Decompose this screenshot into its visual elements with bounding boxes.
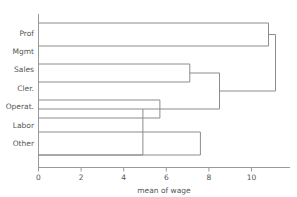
leaf-label-labor: Labor — [13, 121, 35, 130]
leaf-label-sales: Sales — [14, 65, 34, 74]
leaf-label-other: Other — [13, 139, 35, 148]
x-tick-label-0: 0 — [36, 173, 41, 182]
leaf-label-mgmt: Mgmt — [13, 47, 35, 56]
x-tick-label-4: 4 — [121, 173, 126, 182]
x-axis-title: mean of wage — [137, 186, 191, 195]
dendrogram-canvas: 0 2 4 6 8 10 mean of wage Prof Mgmt Sale… — [0, 0, 297, 197]
x-tick-label-10: 10 — [247, 173, 257, 182]
x-tick-label-6: 6 — [164, 173, 169, 182]
leaf-label-cler: Cler. — [17, 84, 34, 93]
x-tick-label-8: 8 — [207, 173, 212, 182]
leaf-label-prof: Prof — [19, 29, 34, 38]
dendrogram-figure: 0 2 4 6 8 10 mean of wage Prof Mgmt Sale… — [0, 0, 297, 197]
leaf-label-operat: Operat. — [6, 102, 34, 111]
x-tick-label-2: 2 — [79, 173, 84, 182]
